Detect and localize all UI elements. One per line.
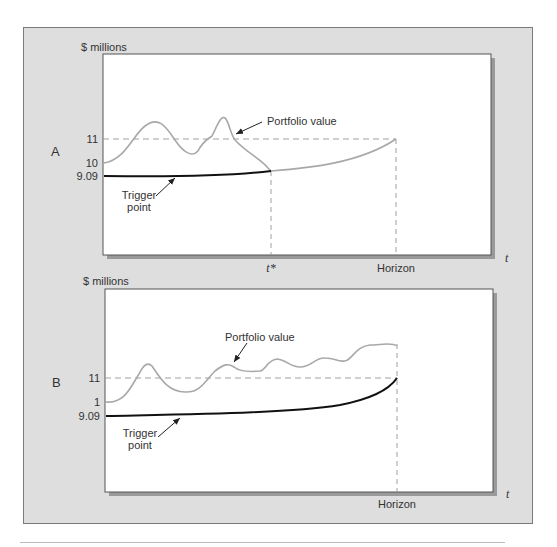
panel-b-label: B [52,375,61,390]
panel-b-ylabel: $ millions [83,275,129,287]
panel-b-xtick-horizon: Horizon [378,498,416,510]
panel-b-portfolio-annot: Portfolio value [225,331,295,343]
panel-b-ytick-909: 9.09 [79,410,100,422]
chart-canvas: $ millions A 11 10 9.09 Portfolio value … [0,0,557,547]
panel-b-ytick-1: 1 [94,396,100,408]
panel-b-ytick-11: 11 [89,372,100,384]
panel-a-ytick-11: 11 [87,133,98,145]
panel-a-portfolio-annot: Portfolio value [267,115,337,127]
panel-a-trigger-annot-2: point [127,201,151,213]
panel-b-plot-area [105,289,493,492]
panel-a-trigger-annot-1: Trigger [122,189,157,201]
panel-a-ytick-10: 10 [86,157,98,169]
panel-b: $ millions B 11 1 9.09 Portfolio value T… [52,275,510,510]
panel-a-ytick-909: 9.09 [77,170,98,182]
panel-a: $ millions A 11 10 9.09 Portfolio value … [51,41,509,275]
panel-a-xtick-tstar: t* [266,261,275,275]
panel-b-xlabel: t [506,487,510,501]
panel-a-xtick-horizon: Horizon [377,262,415,274]
panel-a-label: A [51,144,60,159]
panel-a-plot-area [103,54,491,255]
panel-b-trigger-annot-1: Trigger [123,427,158,439]
panel-a-xlabel: t [505,251,509,265]
panel-b-trigger-annot-2: point [128,439,152,451]
panel-a-ylabel: $ millions [81,41,127,53]
